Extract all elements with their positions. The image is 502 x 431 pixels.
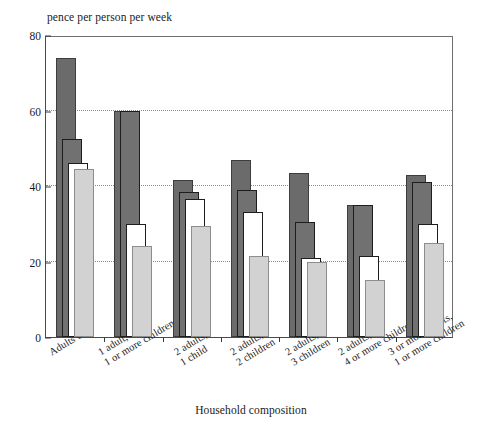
bar <box>365 280 385 337</box>
y-axis-title: pence per person per week <box>47 11 172 23</box>
y-axis-tick-mark <box>45 262 51 263</box>
y-axis-tick-label: 80 <box>21 30 41 42</box>
bar <box>424 243 444 337</box>
bar <box>249 256 269 337</box>
bar <box>132 246 152 337</box>
bar-chart: pence per person per week 020406080 Adul… <box>0 0 502 431</box>
gridline <box>46 110 452 111</box>
plot-area <box>45 36 453 338</box>
y-axis-tick-label: 40 <box>21 181 41 193</box>
y-axis-tick-label: 20 <box>21 257 41 269</box>
y-axis-tick-label: 60 <box>21 106 41 118</box>
y-axis-tick-mark <box>45 111 51 112</box>
x-axis-category-labels: Adults only1 adult,1 or more children2 a… <box>0 338 502 408</box>
bar <box>74 169 94 337</box>
bar <box>307 262 327 338</box>
bar <box>191 226 211 337</box>
x-axis-title: Household composition <box>0 404 502 416</box>
y-axis-tick-mark <box>45 187 51 188</box>
y-axis-tick-mark <box>45 36 51 37</box>
